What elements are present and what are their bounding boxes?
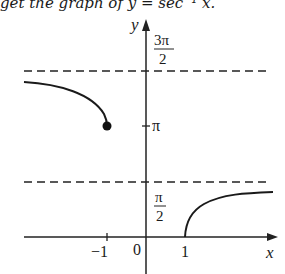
label-neg-one: −1: [91, 243, 108, 260]
y-axis-label: y: [129, 15, 139, 34]
label-pi: π: [152, 117, 160, 134]
closed-endpoint-dot: [103, 122, 112, 131]
label-pi-over-2-num: π: [155, 189, 163, 205]
label-3pi-over-2-den: 2: [159, 51, 167, 67]
label-pi-over-2-den: 2: [156, 208, 164, 224]
label-zero: 0: [133, 241, 141, 258]
y-axis-arrow-icon: [142, 19, 150, 31]
label-one: 1: [181, 243, 189, 260]
x-axis-label: x: [265, 243, 274, 262]
left-branch-curve: [24, 82, 107, 126]
right-branch-curve: [185, 192, 273, 237]
label-3pi-over-2-num: 3π: [154, 32, 170, 48]
graph: y x 3π 2 π π 2 −1 0 1: [0, 0, 285, 274]
x-axis-arrow-icon: [267, 233, 278, 241]
